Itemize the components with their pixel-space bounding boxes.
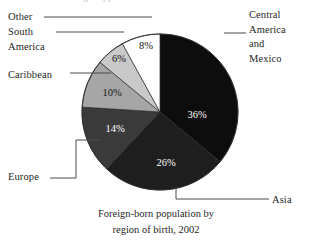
chart-caption: Foreign-born population byregion of birt… <box>0 206 312 237</box>
label-caribbean: Caribbean <box>8 68 52 83</box>
slice-percent-central: 36% <box>187 109 207 120</box>
label-central-line1: Central <box>249 9 281 20</box>
pie-chart-figure: g pp 36% 26% 14% 10% 6% 8% Other SouthAm… <box>0 0 312 245</box>
leader-line-asia <box>176 187 269 199</box>
slice-percent-caribbean: 10% <box>102 87 122 98</box>
label-south-america: SouthAmerica <box>8 25 45 54</box>
slice-percent-other: 8% <box>139 40 153 51</box>
slice-percent-asia: 26% <box>156 157 176 168</box>
label-central-line3: and <box>249 38 264 49</box>
label-europe: Europe <box>8 170 39 185</box>
label-south-america-line1: South <box>8 26 33 37</box>
slice-percent-europe: 14% <box>105 123 125 134</box>
label-central-line4: Mexico <box>249 53 282 64</box>
label-central-america-and-mexico: CentralAmericaandMexico <box>249 8 286 66</box>
caption-line2: region of birth, 2002 <box>113 224 200 235</box>
label-south-america-line2: America <box>8 41 45 52</box>
label-central-line2: America <box>249 24 286 35</box>
caption-line1: Foreign-born population by <box>98 208 214 219</box>
slice-percent-south-america: 6% <box>112 53 126 64</box>
label-other: Other <box>8 10 32 25</box>
